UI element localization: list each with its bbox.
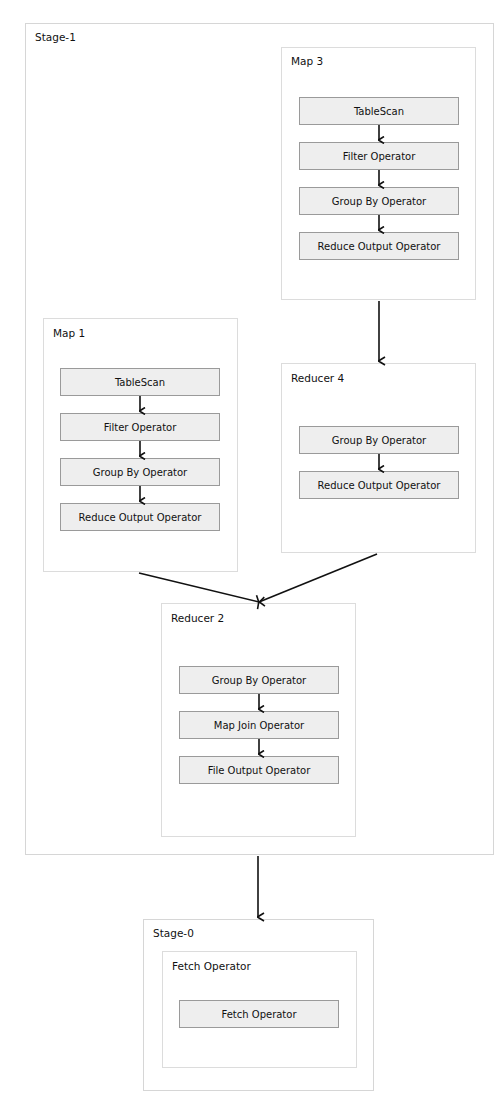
- reducer-4-label: Reducer 4: [291, 372, 344, 384]
- fetch-operator-vertex-label: Fetch Operator: [172, 960, 251, 972]
- stage-0-label: Stage-0: [153, 927, 194, 939]
- map-1-filter-operator[interactable]: Filter Operator: [60, 413, 220, 441]
- map-3-label: Map 3: [291, 55, 323, 67]
- stage-1-label: Stage-1: [35, 31, 76, 43]
- map-3-reduce-output-operator[interactable]: Reduce Output Operator: [299, 232, 459, 260]
- map-1-reduce-output-operator[interactable]: Reduce Output Operator: [60, 503, 220, 531]
- map-1-tablescan-operator[interactable]: TableScan: [60, 368, 220, 396]
- map-3-filter-operator[interactable]: Filter Operator: [299, 142, 459, 170]
- reducer-4-group-by-operator[interactable]: Group By Operator: [299, 426, 459, 454]
- map-3-tablescan-operator[interactable]: TableScan: [299, 97, 459, 125]
- map-1-vertex[interactable]: Map 1: [43, 318, 238, 572]
- map-1-label: Map 1: [53, 327, 85, 339]
- reducer-2-group-by-operator[interactable]: Group By Operator: [179, 666, 339, 694]
- map-1-group-by-operator[interactable]: Group By Operator: [60, 458, 220, 486]
- reducer-2-label: Reducer 2: [171, 612, 224, 624]
- map-3-vertex[interactable]: Map 3: [281, 47, 476, 300]
- reducer-2-file-output-operator[interactable]: File Output Operator: [179, 756, 339, 784]
- reducer-2-map-join-operator[interactable]: Map Join Operator: [179, 711, 339, 739]
- reducer-4-vertex[interactable]: Reducer 4: [281, 363, 476, 553]
- fetch-operator[interactable]: Fetch Operator: [179, 1000, 339, 1028]
- map-3-group-by-operator[interactable]: Group By Operator: [299, 187, 459, 215]
- reducer-4-reduce-output-operator[interactable]: Reduce Output Operator: [299, 471, 459, 499]
